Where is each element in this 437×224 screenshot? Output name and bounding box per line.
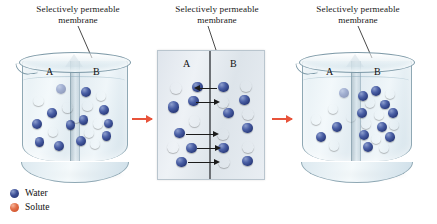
water-flow-arrow-left [199,88,217,89]
water-molecule [371,86,381,96]
compartment-label-b: B [230,58,237,69]
solute-molecule [374,110,384,120]
caption-line-2: membrane [298,15,418,26]
water-flow-arrow-right [196,102,215,103]
water-molecule [81,87,91,97]
compartment-label-a: A [183,58,190,69]
water-molecule [377,122,387,132]
caption-line-2: membrane [18,15,138,26]
water-molecule [104,119,113,128]
water-molecule [359,130,369,140]
water-molecule [363,142,373,152]
legend-item-solute: Solute [10,200,120,214]
legend-item-water: Water [10,186,120,200]
solute-molecule [62,102,73,113]
solute-molecule [379,142,389,152]
water-molecule [35,137,45,147]
solute-molecule [33,96,43,106]
molecule-layer [306,70,406,156]
water-molecule [332,122,342,132]
solute-molecule [361,118,371,128]
water-molecule [32,119,42,129]
osmosis-figure: Selectively permeable membrane Selective… [0,0,437,224]
flow-arrow-layer [162,71,260,171]
water-molecule [79,115,89,125]
water-flow-arrow-right [188,162,214,163]
solute-molecule [93,118,104,129]
caption-line-2: membrane [157,15,277,26]
legend: Water Solute [10,186,120,214]
transfer-arrow-2 [272,118,292,120]
transfer-arrow-1 [132,118,152,120]
solute-molecule [346,112,356,122]
solute-molecule [90,139,100,149]
solute-molecule [311,114,322,125]
water-molecule [99,105,109,115]
legend-label: Solute [25,200,50,214]
solute-molecule [84,128,94,138]
water-molecule [388,108,398,118]
solute-molecule [329,140,339,150]
caption-beaker-initial: Selectively permeable membrane [18,4,138,26]
water-molecule [357,108,367,118]
leader-line-2 [200,26,228,52]
water-molecule [47,108,57,118]
water-molecule [339,88,349,98]
solute-molecule [82,101,92,111]
water-flow-arrow-right [186,134,214,135]
water-molecule [102,131,112,141]
magnified-membrane-panel: A B [157,50,265,180]
beaker-initial: A B [22,52,126,174]
caption-line-1: Selectively permeable [175,4,258,14]
water-molecule [56,84,66,94]
water-flow-arrow-right [197,148,216,149]
molecule-layer [26,70,122,156]
beaker-final: A B [302,52,410,174]
caption-line-1: Selectively permeable [36,4,119,14]
caption-magnified: Selectively permeable membrane [157,4,277,26]
solute-molecule [365,97,376,108]
water-molecule [76,136,86,146]
water-molecule [316,132,326,142]
caption-beaker-final: Selectively permeable membrane [298,4,418,26]
solute-molecule [328,104,338,114]
solute-molecule-icon [10,203,19,212]
legend-label: Water [25,186,48,200]
caption-line-1: Selectively permeable [316,4,399,14]
solute-molecule [389,120,399,130]
solute-molecule [48,127,58,137]
water-molecule [380,100,390,110]
water-molecule [385,132,395,142]
water-molecule [54,141,64,151]
solute-molecule [385,89,395,99]
solute-molecule [96,91,106,101]
water-molecule-icon [10,189,19,198]
